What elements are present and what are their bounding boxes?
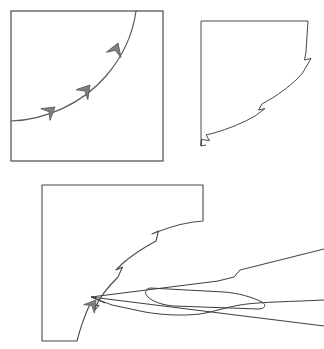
technical-diagram-svg: [0, 0, 324, 349]
figure-root: [0, 0, 324, 349]
panel-top-right-bottom-stub: [201, 140, 202, 147]
figure-background: [0, 0, 324, 349]
